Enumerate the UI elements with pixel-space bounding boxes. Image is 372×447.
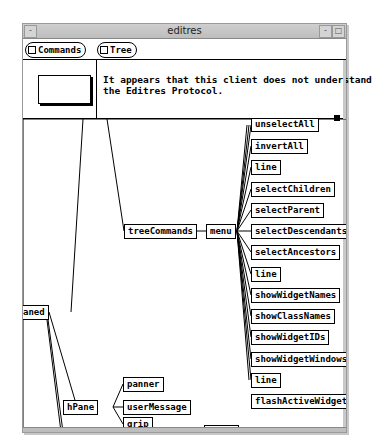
tree-node-paned[interactable]: aned bbox=[23, 305, 49, 320]
tree-label: Tree bbox=[110, 45, 132, 55]
tree-node-userMessage[interactable]: userMessage bbox=[123, 400, 191, 415]
tree-node-panner[interactable]: panner bbox=[123, 377, 164, 392]
maximize-button[interactable]: □ bbox=[332, 25, 345, 38]
editres-window: - editres - □ Commands Tree It appears t… bbox=[22, 23, 347, 433]
message-icon-area bbox=[23, 60, 97, 118]
tree-node-menu-item[interactable]: showWidgetNames bbox=[251, 288, 340, 303]
tree-node-menu-item[interactable]: showWidgetWindows bbox=[251, 352, 346, 367]
tree-node-menu-item[interactable]: selectChildren bbox=[251, 182, 335, 197]
window-icon bbox=[38, 75, 91, 104]
tree-node-hPane[interactable]: hPane bbox=[63, 400, 98, 415]
tree-node-menu-item[interactable]: line bbox=[251, 373, 281, 388]
tree-node-menu-item[interactable]: line bbox=[251, 267, 281, 282]
tree-node-menu-item[interactable]: showClassNames bbox=[251, 309, 335, 324]
tree-node-menu-item[interactable]: showWidgetIDs bbox=[251, 330, 329, 345]
widget-tree-panel: aned treeCommands menu unselectAll inver… bbox=[23, 119, 346, 432]
menu-box-icon bbox=[28, 46, 36, 54]
horizontal-scrollbar[interactable] bbox=[23, 427, 346, 432]
window-title: editres bbox=[23, 24, 346, 38]
menu-box-icon bbox=[100, 46, 108, 54]
menu-bar: Commands Tree bbox=[23, 39, 346, 60]
message-text: It appears that this client does not und… bbox=[103, 74, 372, 96]
tree-node-menu-item[interactable]: selectParent bbox=[251, 203, 324, 218]
tree-node-menu-item[interactable]: unselectAll bbox=[251, 119, 319, 132]
title-bar[interactable]: - editres - □ bbox=[23, 24, 346, 39]
tree-node-menu-item[interactable]: line bbox=[251, 160, 281, 175]
message-panel: It appears that this client does not und… bbox=[23, 60, 346, 119]
tree-node-menu-item[interactable]: invertAll bbox=[251, 139, 308, 154]
commands-menu-button[interactable]: Commands bbox=[25, 42, 86, 58]
tree-node-menu[interactable]: menu bbox=[206, 224, 236, 239]
commands-label: Commands bbox=[38, 45, 81, 55]
tree-menu-button[interactable]: Tree bbox=[97, 42, 137, 58]
tree-node-treeCommands[interactable]: treeCommands bbox=[124, 224, 197, 239]
tree-connector-lines bbox=[23, 119, 346, 432]
tree-node-menu-item[interactable]: flashActiveWidgets bbox=[251, 394, 346, 409]
tree-node-menu-item[interactable]: selectDescendants bbox=[251, 224, 346, 239]
tree-node-menu-item[interactable]: selectAncestors bbox=[251, 245, 340, 260]
minimize-button[interactable]: - bbox=[319, 25, 332, 38]
